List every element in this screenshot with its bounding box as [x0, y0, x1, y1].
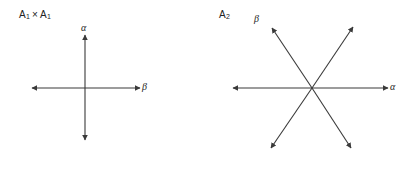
root-vector-alpha-plus-beta [312, 27, 353, 88]
a1-times-a1-vector-diagram [0, 0, 207, 173]
panel-a1-times-a1: A1×A1 α β [0, 0, 207, 173]
panel-a2: A2 β α [207, 0, 415, 173]
root-label-alpha: α [81, 22, 86, 33]
a2-vector-diagram [207, 0, 415, 173]
root-system-figure: A1×A1 α β A2 [0, 0, 415, 173]
root-vector-beta-negative [312, 88, 351, 148]
root-label-beta: β [142, 81, 147, 92]
root-vector-minus-alpha-plus-beta [271, 88, 312, 148]
root-vector-beta-positive [272, 28, 312, 88]
root-label-beta: β [254, 13, 259, 24]
root-label-alpha: α [390, 81, 395, 92]
